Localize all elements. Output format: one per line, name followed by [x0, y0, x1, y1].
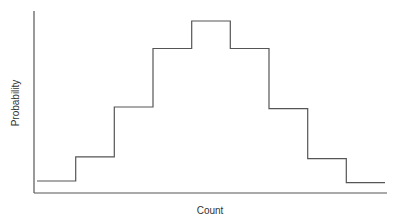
step-line [37, 21, 385, 183]
y-axis-label: Probability [10, 80, 21, 127]
histogram-chart [0, 0, 406, 221]
x-axis-label: Count [197, 205, 224, 216]
